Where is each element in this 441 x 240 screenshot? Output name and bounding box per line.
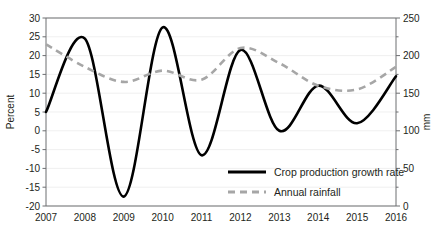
left-axis-tick-label: 25 [29,31,41,42]
x-axis-tick-label: 2014 [307,212,330,223]
left-axis-tick-label: -15 [26,182,41,193]
left-axis-tick-label: 0 [34,125,40,136]
chart-container: -20-15-10-5051015202530 050100150200250 … [0,0,441,240]
left-axis-title: Percent [5,95,16,130]
x-axis-tick-label: 2015 [346,212,369,223]
right-axis-tick-label: 250 [403,13,420,24]
x-axis-tick-label: 2011 [191,212,213,223]
x-axis-tick-label: 2016 [385,212,408,223]
right-axis-tick-label: 0 [403,201,409,212]
left-axis-tick-label: 15 [29,69,41,80]
legend-item-label: Annual rainfall [274,186,341,198]
x-axis-tick-label: 2009 [113,212,136,223]
chart-background [0,0,441,240]
right-axis-tick-label: 50 [403,163,415,174]
right-axis-title: mm [421,114,432,131]
left-axis-tick-label: -10 [26,163,41,174]
legend-item-label: Crop production growth rate [274,166,404,178]
right-axis-tick-label: 100 [403,125,420,136]
left-axis-tick-label: 5 [34,107,40,118]
right-axis-tick-label: 200 [403,50,420,61]
x-axis-tick-label: 2013 [268,212,291,223]
left-axis-tick-label: -5 [31,144,40,155]
x-axis-tick-label: 2012 [229,212,252,223]
combination-line-chart: -20-15-10-5051015202530 050100150200250 … [0,0,441,240]
left-axis-tick-label: 20 [29,50,41,61]
x-axis-tick-label: 2008 [74,212,97,223]
left-axis-tick-label: -20 [26,201,41,212]
left-axis-tick-label: 10 [29,88,41,99]
x-axis-tick-label: 2007 [35,212,58,223]
right-axis-tick-label: 150 [403,88,420,99]
x-axis-tick-label: 2010 [152,212,175,223]
left-axis-tick-label: 30 [29,13,41,24]
